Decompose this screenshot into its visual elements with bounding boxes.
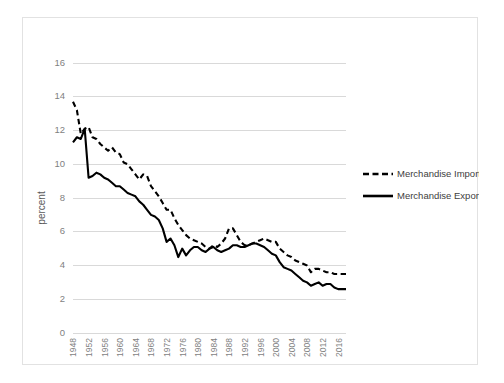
y-axis-tick-label: 2	[60, 293, 65, 304]
y-axis-tick-label: 6	[60, 225, 65, 236]
gridlines-group	[73, 63, 346, 333]
data-series-group	[73, 102, 346, 289]
chart-container: 0246810121416 19481952195619601964196819…	[22, 17, 478, 365]
x-axis-tick-label: 1972	[162, 338, 172, 357]
chart-legend: Merchandise ImportsMerchandise Exports	[363, 168, 479, 201]
x-axis-tick-label: 1992	[240, 338, 250, 357]
y-axis-tick-label: 14	[54, 90, 65, 101]
y-axis-tick-label: 10	[54, 158, 65, 169]
y-axis-tick-label: 12	[54, 124, 65, 135]
x-axis-tick-label: 1984	[209, 338, 219, 357]
legend-label: Merchandise Exports	[397, 190, 479, 201]
x-axis-tick-label: 1980	[193, 338, 203, 357]
y-axis-tick-label: 16	[54, 57, 65, 68]
x-axis-tick-labels: 1948195219561960196419681972197619801984…	[68, 338, 343, 357]
x-axis-tick-label: 1956	[100, 338, 110, 357]
y-axis-tick-label: 4	[60, 259, 65, 270]
y-axis-tick-label: 0	[60, 327, 65, 338]
x-axis-tick-label: 2000	[271, 338, 281, 357]
x-axis-tick-label: 1968	[146, 338, 156, 357]
x-axis-tick-label: 1996	[256, 338, 266, 357]
y-axis-title: percent	[36, 191, 47, 225]
x-axis-tick-label: 2008	[302, 338, 312, 357]
line-chart: 0246810121416 19481952195619601964196819…	[23, 18, 479, 366]
x-axis-tick-label: 1976	[178, 338, 188, 357]
x-axis-tick-label: 1960	[115, 338, 125, 357]
x-axis-tick-label: 2004	[287, 338, 297, 357]
x-axis-tick-label: 1952	[84, 338, 94, 357]
x-axis-tick-label: 2012	[318, 338, 328, 357]
y-axis-tick-labels: 0246810121416	[54, 57, 65, 338]
x-axis-tick-label: 2016	[334, 338, 344, 357]
y-axis-tick-label: 8	[60, 192, 65, 203]
x-axis-tick-label: 1988	[224, 338, 234, 357]
legend-label: Merchandise Imports	[397, 168, 479, 179]
x-axis-tick-label: 1964	[131, 338, 141, 357]
x-axis-tick-label: 1948	[68, 338, 78, 357]
